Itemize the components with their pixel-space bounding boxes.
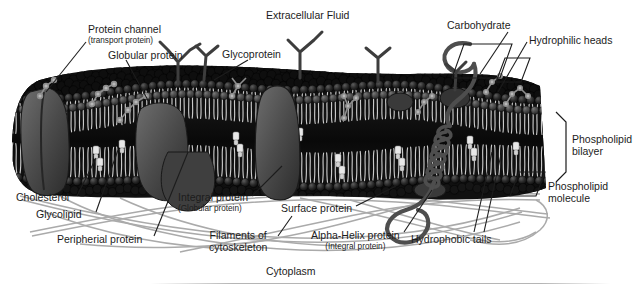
label-glycolipid: Glycolipid bbox=[36, 209, 82, 221]
label-alpha-helix-protein: Alpha-Helix protein (Integral protein) bbox=[311, 230, 400, 251]
label-phospholipid-bilayer: Phospholipid bilayer bbox=[572, 134, 632, 158]
label-peripherial-protein: Peripherial protein bbox=[57, 234, 142, 246]
region-label-extracellular-fluid: Extracellular Fluid bbox=[266, 10, 349, 22]
label-surface-protein: Surface protein bbox=[281, 203, 352, 215]
label-glycoprotein: Glycoprotein bbox=[222, 49, 281, 61]
label-carbohydrate: Carbohydrate bbox=[447, 20, 511, 32]
label-phospholipid-molecule: Phospholipid molecule bbox=[548, 181, 608, 205]
label-protein-channel: Protein channel (transport protein) bbox=[88, 24, 161, 45]
label-globular-protein: Globular protein bbox=[108, 50, 183, 62]
label-filaments-of-cytoskeleton: Filaments of cytoskeleton bbox=[209, 230, 267, 254]
region-label-cytoplasm: Cytoplasm bbox=[266, 266, 316, 278]
label-hydrophilic-heads: Hydrophilic heads bbox=[529, 35, 612, 47]
membrane-diagram: Extracellular Fluid Cytoplasm Protein ch… bbox=[0, 0, 635, 292]
label-cholesterol: Cholesterol bbox=[16, 192, 69, 204]
footer-rule bbox=[150, 283, 610, 284]
label-hydrophobic-tails: Hydrophobic tails bbox=[411, 234, 492, 246]
label-integral-protein: Integral protein (Globular protein) bbox=[178, 192, 248, 213]
